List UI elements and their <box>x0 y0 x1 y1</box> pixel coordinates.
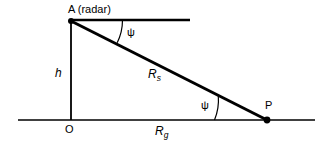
label-grazing-angle-bottom: ψ <box>201 100 209 111</box>
label-ground-range: Rg <box>155 125 169 139</box>
grazing-angle-arc-top <box>117 20 122 43</box>
point-p-marker <box>264 117 271 124</box>
label-point-o: O <box>65 124 74 135</box>
label-grazing-angle-top: ψ <box>127 27 135 38</box>
label-slant-range-base: R <box>148 67 157 81</box>
label-ground-range-sub: g <box>164 130 169 140</box>
slant-range-line <box>71 21 267 120</box>
radar-geometry-diagram: A (radar) h Rs Rg O P ψ ψ <box>0 0 331 151</box>
label-point-a: A (radar) <box>68 4 111 15</box>
label-ground-range-base: R <box>155 124 164 138</box>
grazing-angle-arc-bottom <box>215 96 219 120</box>
label-height: h <box>55 67 62 79</box>
label-slant-range: Rs <box>148 68 161 82</box>
label-slant-range-sub: s <box>157 73 161 83</box>
label-point-p: P <box>265 100 272 111</box>
point-a-marker <box>68 18 74 24</box>
